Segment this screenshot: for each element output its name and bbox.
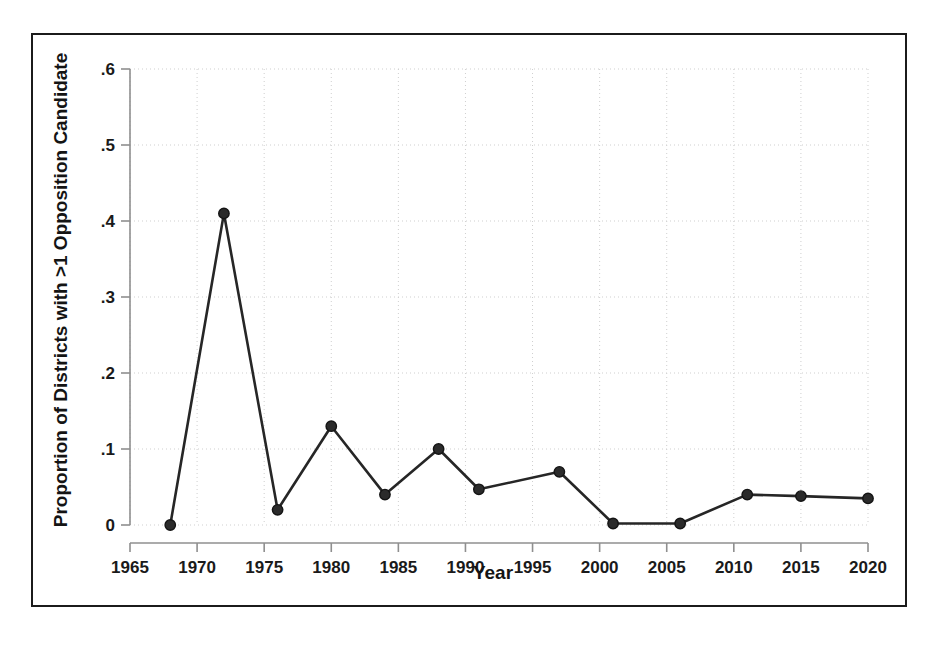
x-axis-title: Year xyxy=(473,562,514,583)
data-point-marker xyxy=(863,493,873,503)
x-tick-label: 1980 xyxy=(312,558,350,577)
series-line xyxy=(170,213,868,525)
y-axis-title: Proportion of Districts with >1 Oppositi… xyxy=(50,53,71,528)
x-tick-label: 2015 xyxy=(782,558,820,577)
y-tick-label: 0 xyxy=(106,516,115,535)
data-point-marker xyxy=(219,208,229,218)
x-tick-label: 1970 xyxy=(178,558,216,577)
data-point-marker xyxy=(272,505,282,515)
gridlines xyxy=(130,69,868,525)
y-tick-label: .4 xyxy=(101,212,116,231)
line-chart: 1965197019751980198519901995200020052010… xyxy=(33,35,905,605)
data-point-marker xyxy=(474,484,484,494)
data-point-marker xyxy=(433,444,443,454)
data-point-marker xyxy=(165,520,175,530)
data-point-marker xyxy=(742,489,752,499)
y-axis-ticks: 0.1.2.3.4.5.6 xyxy=(101,60,130,535)
data-point-marker xyxy=(380,489,390,499)
y-tick-label: .6 xyxy=(101,60,115,79)
y-tick-label: .5 xyxy=(101,136,115,155)
data-point-marker xyxy=(608,518,618,528)
page-root: 1965197019751980198519901995200020052010… xyxy=(0,0,940,647)
x-tick-label: 1995 xyxy=(514,558,552,577)
x-tick-label: 1985 xyxy=(379,558,417,577)
data-point-marker xyxy=(675,518,685,528)
y-tick-label: .3 xyxy=(101,288,115,307)
data-point-marker xyxy=(326,421,336,431)
figure-frame: 1965197019751980198519901995200020052010… xyxy=(31,33,907,607)
x-tick-label: 2005 xyxy=(648,558,686,577)
x-tick-label: 2010 xyxy=(715,558,753,577)
y-tick-label: .2 xyxy=(101,364,115,383)
data-point-marker xyxy=(796,491,806,501)
data-point-marker xyxy=(554,467,564,477)
x-tick-label: 2020 xyxy=(849,558,887,577)
x-tick-label: 2000 xyxy=(581,558,619,577)
x-tick-label: 1975 xyxy=(245,558,283,577)
y-tick-label: .1 xyxy=(101,440,115,459)
x-tick-label: 1965 xyxy=(111,558,149,577)
